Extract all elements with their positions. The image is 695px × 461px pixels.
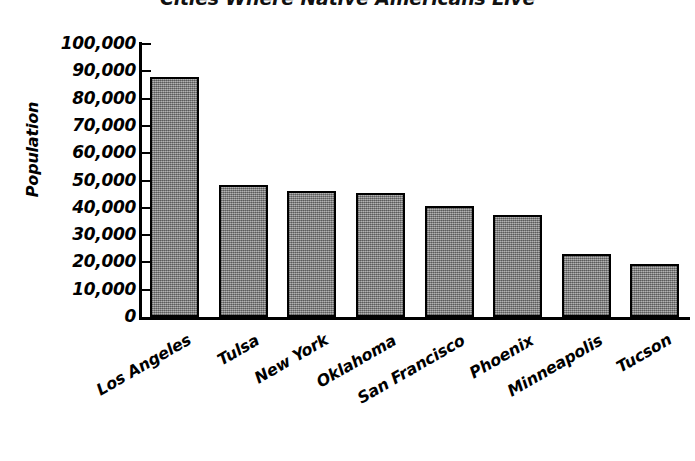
x-axis-category-labels: Los AngelesTulsaNew YorkOklahomaSan Fran… bbox=[0, 0, 695, 461]
bar-chart-figure: Cities Where Native Americans Live Popul… bbox=[0, 0, 695, 461]
x-axis-category-label: Tucson bbox=[613, 330, 675, 377]
x-axis-category-label: Los Angeles bbox=[93, 330, 194, 399]
x-axis-category-label: Tulsa bbox=[214, 330, 263, 369]
